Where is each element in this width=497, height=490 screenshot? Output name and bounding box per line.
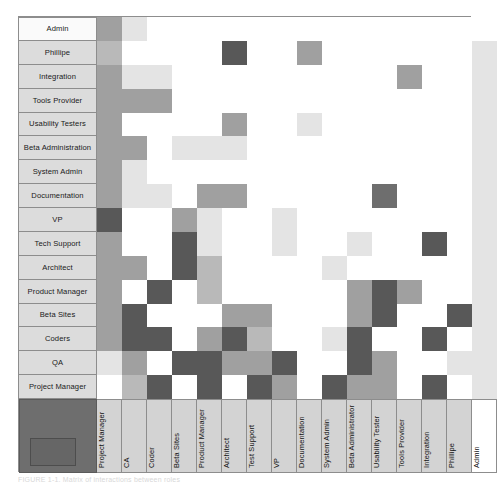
row-label: Integration	[19, 65, 97, 89]
matrix-cell	[97, 65, 122, 89]
matrix-cell	[222, 256, 247, 280]
column-header-label: Integration	[422, 431, 431, 468]
row-label: Product Manager	[19, 280, 97, 304]
matrix-cell	[447, 41, 472, 65]
column-header-label: Admin	[472, 446, 481, 468]
row-cells	[97, 41, 497, 65]
column-header-label: Beta Administrator	[347, 405, 356, 468]
column-header-label: Project Manager	[97, 412, 106, 468]
matrix-cell	[322, 113, 347, 137]
row-label: Phillipe	[19, 41, 97, 65]
matrix-cell	[422, 208, 447, 232]
matrix-row: QA	[19, 351, 472, 375]
matrix-cell	[197, 304, 222, 328]
matrix-cell	[297, 17, 322, 41]
matrix-cell	[347, 304, 372, 328]
matrix-cell	[472, 327, 497, 351]
matrix-cell	[322, 41, 347, 65]
matrix-cell	[172, 136, 197, 160]
matrix-cell	[397, 208, 422, 232]
matrix-cell	[297, 160, 322, 184]
matrix-cell	[272, 351, 297, 375]
matrix-cell	[422, 41, 447, 65]
matrix-cell	[472, 113, 497, 137]
matrix-cell	[147, 65, 172, 89]
matrix-cell	[222, 41, 247, 65]
matrix-cell	[297, 89, 322, 113]
row-label: Tech Support	[19, 232, 97, 256]
matrix-cell	[297, 327, 322, 351]
matrix-cell	[447, 280, 472, 304]
matrix-cell	[347, 89, 372, 113]
matrix-cell	[97, 17, 122, 41]
matrix-cell	[347, 256, 372, 280]
matrix-cell	[272, 136, 297, 160]
matrix-cell	[247, 160, 272, 184]
row-cells	[97, 375, 497, 399]
matrix-cell	[197, 41, 222, 65]
matrix-cell	[222, 304, 247, 328]
matrix-cell	[372, 375, 397, 399]
matrix-cell	[247, 351, 272, 375]
matrix-cell	[472, 280, 497, 304]
matrix-cell	[422, 327, 447, 351]
matrix-cell	[297, 113, 322, 137]
matrix-cell	[322, 136, 347, 160]
matrix-cell	[347, 351, 372, 375]
matrix-cell	[372, 256, 397, 280]
matrix-cell	[372, 160, 397, 184]
matrix-cell	[247, 208, 272, 232]
corner-block	[19, 399, 97, 473]
matrix-row: Architect	[19, 256, 472, 280]
matrix-cell	[322, 65, 347, 89]
matrix-cell	[172, 375, 197, 399]
matrix-cell	[347, 375, 372, 399]
row-cells	[97, 89, 497, 113]
matrix-cell	[422, 113, 447, 137]
matrix-cell	[122, 232, 147, 256]
matrix-cell	[372, 17, 397, 41]
column-header: Admin	[472, 399, 497, 473]
matrix-cell	[472, 17, 497, 41]
matrix-cell	[122, 113, 147, 137]
matrix-cell	[272, 304, 297, 328]
matrix-cell	[247, 65, 272, 89]
matrix-cell	[372, 113, 397, 137]
matrix-cell	[147, 208, 172, 232]
row-cells	[97, 208, 497, 232]
matrix-cell	[472, 351, 497, 375]
matrix-cell	[347, 136, 372, 160]
matrix-cell	[172, 208, 197, 232]
matrix-cell	[272, 256, 297, 280]
matrix-cell	[147, 256, 172, 280]
matrix-cell	[222, 351, 247, 375]
matrix-cell	[372, 65, 397, 89]
matrix-cell	[397, 327, 422, 351]
matrix-row: System Admin	[19, 160, 472, 184]
matrix-cell	[197, 375, 222, 399]
matrix-cell	[97, 304, 122, 328]
matrix-cell	[97, 232, 122, 256]
matrix-row: Integration	[19, 65, 472, 89]
matrix-cell	[222, 65, 247, 89]
matrix-cell	[397, 280, 422, 304]
matrix-cell	[472, 89, 497, 113]
matrix-cell	[422, 280, 447, 304]
matrix-cell	[447, 184, 472, 208]
row-label: Coders	[19, 327, 97, 351]
column-header-label: CA	[122, 457, 131, 468]
matrix-cell	[422, 160, 447, 184]
matrix-cell	[222, 89, 247, 113]
matrix-cell	[447, 375, 472, 399]
matrix-cell	[172, 184, 197, 208]
matrix-cell	[247, 304, 272, 328]
matrix-cell	[372, 351, 397, 375]
matrix-cell	[197, 327, 222, 351]
matrix-cell	[272, 280, 297, 304]
matrix-row: Coders	[19, 327, 472, 351]
column-header: Coder	[147, 399, 172, 473]
matrix-cell	[122, 327, 147, 351]
matrix-cell	[172, 327, 197, 351]
matrix-cell	[322, 208, 347, 232]
matrix-cell	[172, 304, 197, 328]
